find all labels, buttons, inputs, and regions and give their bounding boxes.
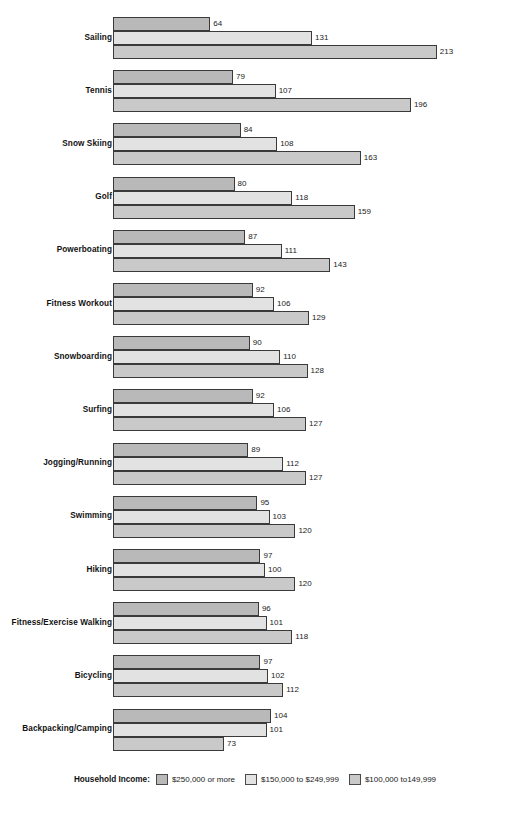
bar[interactable]	[113, 496, 257, 510]
bar-value-label: 92	[256, 284, 265, 296]
category-label: Sailing	[0, 34, 112, 42]
bar[interactable]	[113, 510, 270, 524]
legend-item-2[interactable]: $150,000 to $249,999	[245, 774, 339, 785]
bar-value-label: 163	[364, 152, 377, 164]
bar[interactable]	[113, 191, 292, 205]
bar[interactable]	[113, 151, 361, 165]
bar[interactable]	[113, 443, 248, 457]
category-label: Powerboating	[0, 246, 112, 254]
bar-value-label: 111	[285, 245, 297, 257]
bar[interactable]	[113, 17, 210, 31]
bar[interactable]	[113, 244, 282, 258]
bar-value-label: 127	[309, 418, 322, 430]
bar-value-label: 92	[256, 390, 265, 402]
legend-swatch-icon-3	[349, 774, 361, 785]
bar-value-label: 79	[236, 71, 245, 83]
bar[interactable]	[113, 177, 235, 191]
bar-value-label: 100	[268, 564, 281, 576]
bar-value-label: 97	[263, 656, 272, 668]
bar[interactable]	[113, 549, 260, 563]
bar-value-label: 80	[238, 178, 247, 190]
bar[interactable]	[113, 616, 267, 630]
bar[interactable]	[113, 457, 283, 471]
bar[interactable]	[113, 737, 224, 751]
bar[interactable]	[113, 683, 283, 697]
bar[interactable]	[113, 669, 268, 683]
bar[interactable]	[113, 31, 312, 45]
bar[interactable]	[113, 723, 267, 737]
bar[interactable]	[113, 123, 241, 137]
bar-value-label: 128	[311, 365, 324, 377]
category-label: Fitness/Exercise Walking	[0, 619, 112, 627]
bar-value-label: 106	[277, 298, 290, 310]
bar[interactable]	[113, 403, 274, 417]
bar[interactable]	[113, 258, 330, 272]
bar-value-label: 112	[286, 458, 299, 470]
bar[interactable]	[113, 417, 306, 431]
bar-group: Jogging/Running89112127	[0, 443, 510, 485]
bar[interactable]	[113, 84, 276, 98]
legend-item-label: $150,000 to $249,999	[261, 775, 339, 784]
legend-item-3[interactable]: $100,000 to149,999	[349, 774, 436, 785]
bar-group: Hiking97100120	[0, 549, 510, 591]
legend-item-label: $250,000 or more	[172, 775, 235, 784]
bar-value-label: 84	[244, 124, 253, 136]
legend-item-label: $100,000 to149,999	[365, 775, 436, 784]
bar[interactable]	[113, 311, 309, 325]
bar-value-label: 73	[227, 738, 236, 750]
bar-group: Sailing64131213	[0, 17, 510, 59]
category-label: Golf	[0, 193, 112, 201]
legend-item-1[interactable]: $250,000 or more	[156, 774, 235, 785]
bar[interactable]	[113, 45, 437, 59]
category-label: Surfing	[0, 406, 112, 414]
bar[interactable]	[113, 70, 233, 84]
bar[interactable]	[113, 563, 265, 577]
bar[interactable]	[113, 364, 308, 378]
bar-value-label: 103	[273, 511, 286, 523]
bar[interactable]	[113, 471, 306, 485]
bar[interactable]	[113, 205, 355, 219]
category-label: Backpacking/Camping	[0, 725, 112, 733]
bar[interactable]	[113, 297, 274, 311]
bar[interactable]	[113, 336, 250, 350]
category-label: Tennis	[0, 87, 112, 95]
bar-value-label: 97	[263, 550, 272, 562]
bar-value-label: 118	[295, 192, 308, 204]
bar[interactable]	[113, 283, 253, 297]
bar-group: Bicycling97102112	[0, 655, 510, 697]
bar-value-label: 89	[251, 444, 260, 456]
bar[interactable]	[113, 350, 280, 364]
bar-value-label: 127	[309, 472, 322, 484]
bar-group: Snowboarding90110128	[0, 336, 510, 378]
bar[interactable]	[113, 230, 245, 244]
bar[interactable]	[113, 602, 259, 616]
bar-value-label: 102	[271, 670, 284, 682]
bar-value-label: 159	[358, 206, 371, 218]
bar[interactable]	[113, 524, 295, 538]
category-label: Snowboarding	[0, 353, 112, 361]
bar[interactable]	[113, 655, 260, 669]
bar-group: Golf80118159	[0, 177, 510, 219]
category-label: Hiking	[0, 566, 112, 574]
bar-value-label: 118	[295, 631, 308, 643]
bar-group: Surfing92106127	[0, 389, 510, 431]
bar-group: Fitness Workout92106129	[0, 283, 510, 325]
category-label: Fitness Workout	[0, 300, 112, 308]
bar-value-label: 120	[298, 578, 311, 590]
bar-value-label: 112	[286, 684, 299, 696]
bar[interactable]	[113, 389, 253, 403]
bar[interactable]	[113, 98, 411, 112]
bar[interactable]	[113, 709, 271, 723]
bar-value-label: 106	[277, 404, 290, 416]
bar-value-label: 131	[315, 32, 328, 44]
bar[interactable]	[113, 577, 295, 591]
bar[interactable]	[113, 137, 277, 151]
category-label: Snow Skiing	[0, 140, 112, 148]
bar-value-label: 107	[279, 85, 292, 97]
bar-group: Fitness/Exercise Walking96101118	[0, 602, 510, 644]
bar-value-label: 108	[280, 138, 293, 150]
bar-value-label: 87	[248, 231, 257, 243]
bar-value-label: 104	[274, 710, 287, 722]
bar-value-label: 101	[270, 724, 283, 736]
bar[interactable]	[113, 630, 292, 644]
